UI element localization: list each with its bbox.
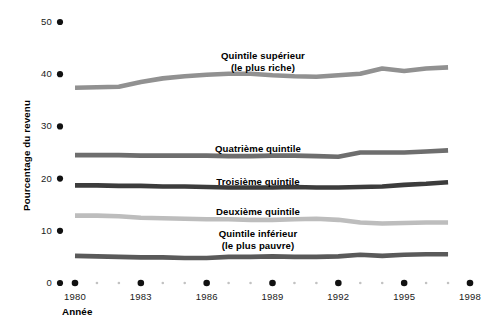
y-tick-dot: [57, 280, 63, 286]
y-tick-label: 40: [30, 68, 52, 79]
y-tick-dot: [57, 176, 63, 182]
x-tick-dot-minor: [249, 282, 252, 285]
y-tick-dot: [57, 71, 63, 77]
series-label-0: Quintile supérieur(le plus riche): [173, 50, 353, 73]
x-tick-dot-minor: [425, 282, 428, 285]
series-label-line1: Quintile supérieur: [173, 50, 353, 62]
x-tick-dot-major: [138, 280, 145, 287]
x-tick-label: 1980: [55, 291, 95, 302]
x-tick-dot-minor: [227, 282, 230, 285]
x-tick-dot-minor: [381, 282, 384, 285]
y-tick-label: 20: [30, 173, 52, 184]
series-label-line1: Troisième quintile: [168, 176, 348, 188]
x-tick-dot-minor: [118, 282, 121, 285]
x-tick-dot-minor: [315, 282, 318, 285]
series-label-line1: Quatrième quintile: [168, 143, 348, 155]
x-tick-label: 1986: [187, 291, 227, 302]
series-label-3: Deuxième quintile: [168, 206, 348, 218]
y-tick-label: 30: [30, 120, 52, 131]
x-tick-dot-minor: [96, 282, 99, 285]
x-axis-title: Année: [62, 306, 92, 317]
x-tick-dot-minor: [161, 282, 164, 285]
x-tick-dot-major: [72, 280, 79, 287]
series-label-line2: (le plus riche): [173, 62, 353, 74]
x-tick-dot-major: [203, 280, 210, 287]
x-tick-dot-major: [335, 280, 342, 287]
series-label-1: Quatrième quintile: [168, 143, 348, 155]
y-tick-label: 50: [30, 16, 52, 27]
x-tick-label: 1989: [253, 291, 293, 302]
x-tick-label: 1983: [121, 291, 161, 302]
y-tick-dot: [57, 123, 63, 129]
y-tick-label: 10: [30, 225, 52, 236]
y-tick-dot: [57, 19, 63, 25]
series-label-line1: Deuxième quintile: [168, 206, 348, 218]
x-tick-dot-minor: [359, 282, 362, 285]
x-axis-tick-dots: [72, 280, 474, 287]
y-axis-tick-dots: [57, 19, 63, 286]
x-tick-label: 1995: [384, 291, 424, 302]
series-line-4: [75, 254, 448, 258]
x-tick-dot-major: [269, 280, 276, 287]
x-tick-dot-minor: [183, 282, 186, 285]
y-tick-dot: [57, 228, 63, 234]
y-tick-label: 0: [30, 277, 52, 288]
x-tick-dot-minor: [293, 282, 296, 285]
x-tick-dot-major: [401, 280, 408, 287]
x-tick-label: 1992: [318, 291, 358, 302]
x-tick-dot-minor: [447, 282, 450, 285]
x-tick-dot-major: [467, 280, 474, 287]
series-label-line1: Quintile inférieur: [168, 228, 348, 240]
chart-figure: 01020304050 1980198319861989199219951998…: [0, 0, 498, 332]
y-axis-title: Pourcentage du revenu: [21, 86, 32, 226]
series-label-4: Quintile inférieur(le plus pauvre): [168, 228, 348, 251]
series-label-line2: (le plus pauvre): [168, 240, 348, 252]
series-label-2: Troisième quintile: [168, 176, 348, 188]
x-tick-label: 1998: [450, 291, 490, 302]
